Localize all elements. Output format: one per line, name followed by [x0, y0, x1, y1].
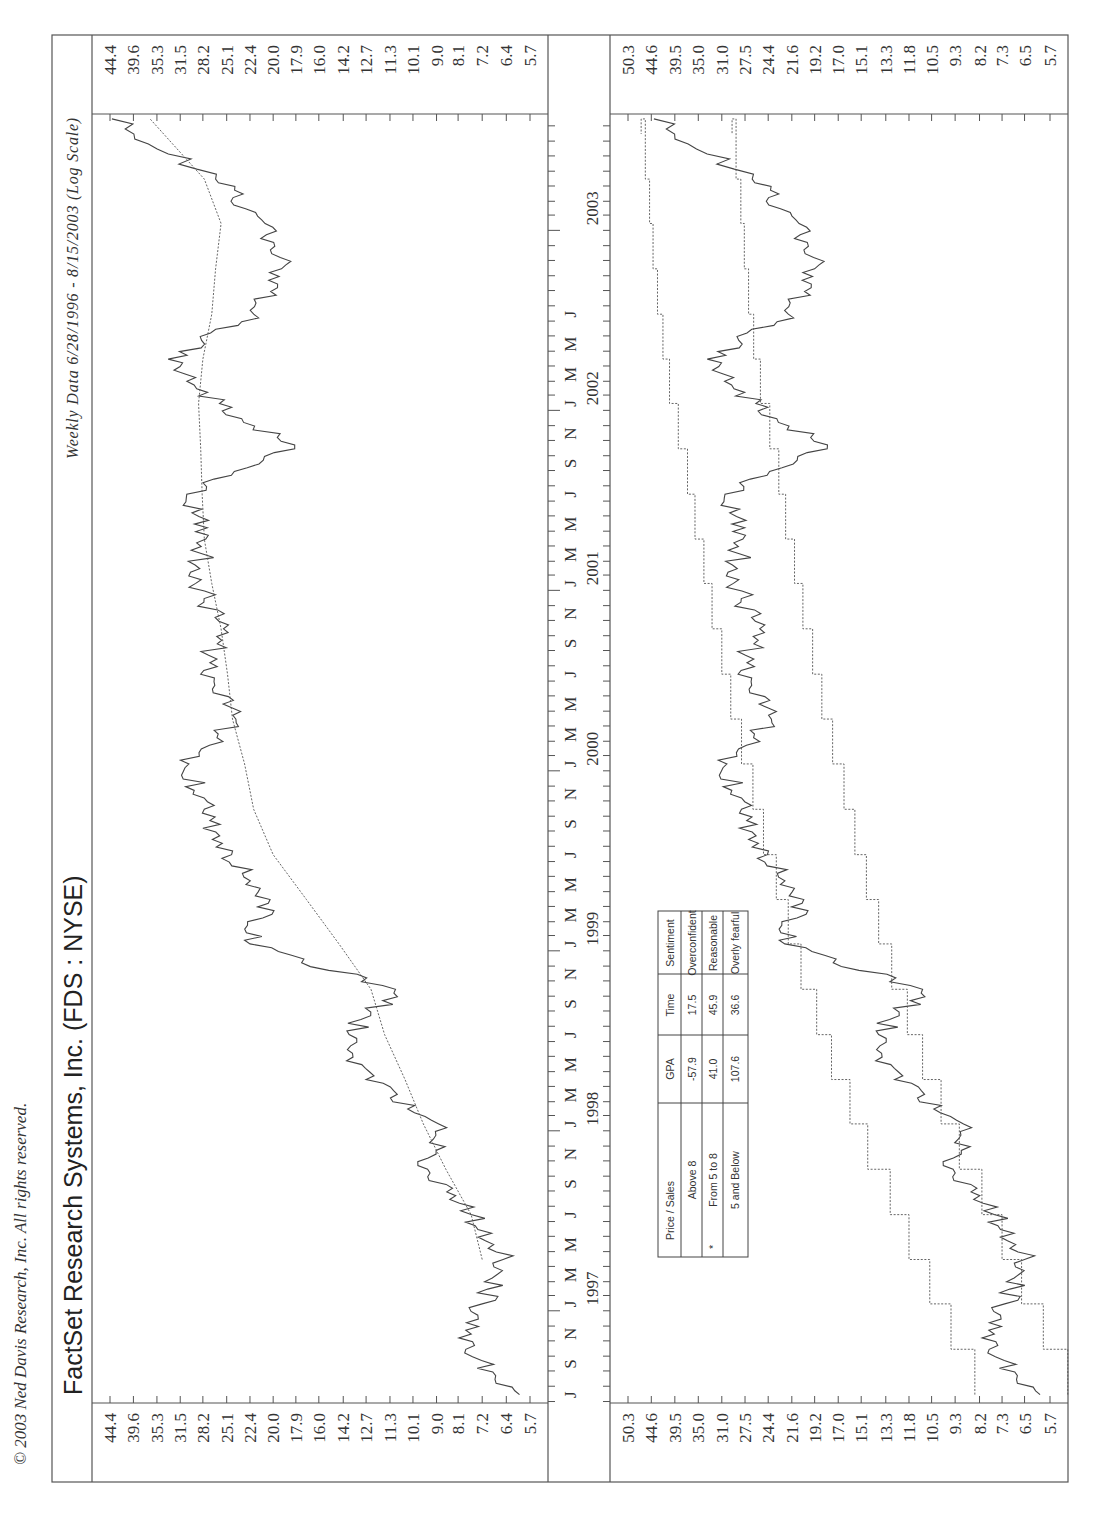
y-tick-label: 24.4 [759, 45, 778, 75]
y-tick-label: 19.2 [806, 45, 825, 75]
month-label: N [561, 968, 580, 980]
y-tick-label: 9.3 [946, 1413, 965, 1434]
month-label: S [561, 1179, 580, 1188]
table-cell-range: 5 and Below [729, 1151, 741, 1209]
month-label: N [561, 1328, 580, 1340]
month-label: M [561, 877, 580, 892]
month-label: J [561, 491, 580, 498]
y-tick-label: 35.3 [148, 1413, 167, 1443]
table-cell-time: 36.6 [729, 995, 741, 1016]
month-label: N [561, 607, 580, 619]
y-tick-label: 11.3 [381, 1413, 400, 1442]
month-label: S [561, 819, 580, 828]
y-tick-label: 50.3 [619, 1413, 638, 1443]
y-tick-label: 8.1 [449, 1413, 468, 1434]
chart-canvas: © 2003 Ned Davis Research, Inc. All righ… [0, 0, 1109, 1525]
y-tick-label: 31.0 [713, 1413, 732, 1443]
chart-subtitle: Weekly Data 6/28/1996 - 8/15/2003 (Log S… [64, 117, 82, 459]
y-tick-label: 7.2 [473, 45, 492, 66]
month-label: M [561, 1237, 580, 1252]
y-tick-label: 6.4 [497, 1413, 516, 1435]
chart-stage: © 2003 Ned Davis Research, Inc. All righ… [0, 0, 1109, 1525]
moving-average-line [150, 119, 482, 1260]
bottom-plot-area [641, 119, 1068, 1395]
y-tick-label: 14.2 [334, 45, 353, 75]
month-label: M [561, 1087, 580, 1102]
y-tick-label: 16.0 [310, 1413, 329, 1443]
month-label: N [561, 427, 580, 439]
year-label: 1998 [583, 1092, 602, 1126]
table-row: 5 and Below 107.6 36.6 Overly fearful [729, 912, 741, 1209]
table-cell-sentiment: Overly fearful [729, 912, 741, 974]
top-panel: 44.439.635.331.528.225.122.420.017.916.0… [92, 35, 548, 1482]
table-header-gpa: GPA [664, 1058, 676, 1079]
y-tick-label: 31.5 [171, 45, 190, 75]
y-tick-label: 22.4 [241, 45, 260, 75]
y-tick-label: 10.1 [404, 45, 423, 75]
y-tick-label: 5.7 [521, 1413, 540, 1435]
y-tick-label: 27.5 [736, 45, 755, 75]
table-header-sentiment: Sentiment [664, 919, 676, 966]
month-label: M [561, 1267, 580, 1282]
y-tick-label: 17.9 [287, 1413, 306, 1443]
table-cell-time: 17.5 [686, 995, 698, 1016]
y-tick-label: 44.6 [642, 1413, 661, 1443]
year-label: 1999 [583, 912, 602, 946]
table-cell-gpa: 41.0 [707, 1059, 719, 1080]
y-tick-label: 9.3 [946, 45, 965, 66]
y-tick-label: 35.3 [148, 45, 167, 75]
y-tick-label: 9.0 [428, 45, 447, 66]
y-tick-label: 25.1 [218, 1413, 237, 1443]
y-tick-label: 8.1 [449, 45, 468, 66]
y-tick-label: 39.5 [666, 1413, 685, 1443]
y-tick-label: 8.2 [971, 1413, 990, 1434]
y-tick-label: 15.1 [852, 1413, 871, 1443]
month-label: J [561, 940, 580, 947]
y-tick-label: 6.4 [497, 45, 516, 67]
month-label: N [561, 788, 580, 800]
y-tick-label: 5.7 [521, 45, 540, 67]
y-tick-label: 44.4 [101, 1413, 120, 1443]
y-tick-label: 5.7 [1041, 1413, 1060, 1435]
price-line [112, 119, 520, 1395]
month-label: N [561, 1148, 580, 1160]
month-label: J [561, 1120, 580, 1127]
year-label: 2001 [583, 551, 602, 585]
y-tick-label: 21.6 [783, 45, 802, 75]
y-tick-label: 44.6 [642, 45, 661, 75]
month-label: J [561, 311, 580, 318]
y-tick-label: 17.0 [829, 1413, 848, 1443]
y-tick-label: 39.5 [666, 45, 685, 75]
table-cell-range: From 5 to 8 [707, 1153, 719, 1207]
year-label: 2002 [583, 371, 602, 405]
current-row-marker: * [707, 1245, 719, 1249]
y-tick-label: 39.6 [124, 45, 143, 75]
y-tick-label: 20.0 [264, 45, 283, 75]
y-tick-label: 35.0 [689, 1413, 708, 1443]
table-header-time: Time [664, 993, 676, 1016]
y-tick-label: 12.7 [357, 45, 376, 75]
y-tick-label: 44.4 [101, 45, 120, 75]
y-tick-label: 13.3 [877, 1413, 896, 1443]
month-label: M [561, 337, 580, 352]
month-label: J [561, 1300, 580, 1307]
month-label: J [561, 400, 580, 407]
valuation-band-line [641, 119, 975, 1395]
y-tick-label: 25.1 [218, 45, 237, 75]
y-tick-label: 50.3 [619, 45, 638, 75]
y-tick-label: 21.6 [783, 1413, 802, 1443]
y-tick-label: 13.3 [877, 45, 896, 75]
chart-title: FactSet Research Systems, Inc. (FDS : NY… [59, 875, 87, 1395]
valuation-band-line [732, 119, 1068, 1395]
table-cell-range: Above 8 [686, 1161, 698, 1200]
copyright-text: © 2003 Ned Davis Research, Inc. All righ… [11, 1103, 30, 1465]
y-tick-label: 10.5 [923, 45, 942, 75]
y-tick-label: 35.0 [689, 45, 708, 75]
y-tick-label: 20.0 [264, 1413, 283, 1443]
month-label: M [561, 517, 580, 532]
month-label: S [561, 999, 580, 1008]
month-label: J [561, 1031, 580, 1038]
y-tick-label: 6.5 [1016, 1413, 1035, 1434]
top-plot-area [112, 119, 520, 1395]
y-tick-label: 16.0 [310, 45, 329, 75]
